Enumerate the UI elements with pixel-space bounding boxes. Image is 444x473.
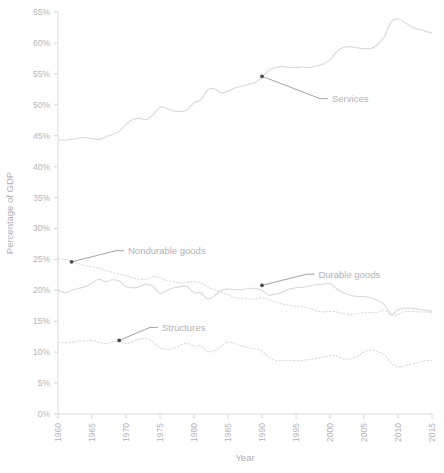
series-line-durable-goods	[58, 279, 432, 314]
annotation-marker-structures	[117, 339, 121, 343]
x-tick-label: 1970	[121, 423, 131, 442]
y-tick-label: 60%	[33, 38, 50, 48]
y-tick-label: 25%	[33, 254, 50, 264]
series-lines	[58, 19, 432, 367]
annotation-marker-durable-goods	[260, 283, 264, 287]
y-tick-label: 15%	[33, 316, 50, 326]
y-tick-label: 30%	[33, 223, 50, 233]
line-chart: 0%5%10%15%20%25%30%35%40%45%50%55%60%65%…	[0, 0, 444, 473]
chart-container: 0%5%10%15%20%25%30%35%40%45%50%55%60%65%…	[0, 0, 444, 473]
y-tick-label: 55%	[33, 69, 50, 79]
y-axis-title: Percentage of GDP	[4, 172, 15, 254]
x-tick-label: 1960	[53, 423, 63, 442]
annotation-leader-services	[262, 76, 328, 98]
y-tick-label: 10%	[33, 347, 50, 357]
annotation-marker-services	[260, 74, 264, 78]
series-label-durable-goods: Durable goods	[318, 269, 380, 280]
y-tick-label: 0%	[38, 409, 51, 419]
x-tick-label: 2015	[427, 423, 437, 442]
series-label-services: Services	[332, 93, 369, 104]
x-tick-label: 1990	[257, 423, 267, 442]
series-line-structures	[58, 338, 432, 367]
x-tick-label: 2005	[359, 423, 369, 442]
series-line-services	[58, 19, 432, 140]
x-axis: 1960196519701975198019851990199520002005…	[53, 414, 437, 442]
y-tick-label: 65%	[33, 7, 50, 17]
y-tick-label: 40%	[33, 162, 50, 172]
annotation-leader-durable-goods	[262, 274, 314, 285]
y-tick-label: 35%	[33, 193, 50, 203]
x-tick-label: 2000	[325, 423, 335, 442]
annotation-leader-nondurable-goods	[72, 251, 124, 262]
series-annotations: ServicesDurable goodsNondurable goodsStr…	[70, 74, 381, 342]
series-label-structures: Structures	[162, 322, 206, 333]
x-tick-label: 1980	[189, 423, 199, 442]
x-tick-label: 2010	[393, 423, 403, 442]
annotation-leader-structures	[119, 327, 158, 340]
x-tick-label: 1995	[291, 423, 301, 442]
annotation-marker-nondurable-goods	[70, 260, 74, 264]
y-tick-label: 45%	[33, 131, 50, 141]
x-tick-label: 1965	[87, 423, 97, 442]
y-tick-label: 50%	[33, 100, 50, 110]
y-axis: 0%5%10%15%20%25%30%35%40%45%50%55%60%65%	[33, 7, 58, 419]
series-line-nondurable-goods	[58, 258, 432, 315]
x-tick-label: 1975	[155, 423, 165, 442]
x-axis-title: Year	[235, 452, 254, 463]
series-label-nondurable-goods: Nondurable goods	[128, 245, 206, 256]
y-tick-label: 5%	[38, 378, 51, 388]
y-tick-label: 20%	[33, 285, 50, 295]
x-tick-label: 1985	[223, 423, 233, 442]
